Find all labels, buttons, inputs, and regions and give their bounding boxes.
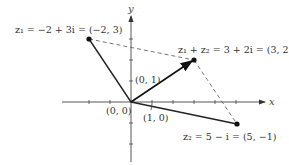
complex-plane-diagram: x y z₁ = −2 + 3i = (−2, 3) z₁ + z₂ = 3 +… [0,0,289,165]
label-z2: z₂ = 5 − i = (5, −1) [183,131,276,142]
point-sum [191,57,196,62]
label-unit-x: (1, 0) [143,112,169,123]
dashed-sum-to-z2 [194,60,237,124]
label-origin: (0, 0) [106,105,132,116]
unit-x-marker [151,104,152,110]
point-z2 [234,121,239,126]
point-z1 [86,36,91,41]
label-sum: z₁ + z₂ = 3 + 2i = (3, 2) [178,44,289,55]
label-z1: z₁ = −2 + 3i = (−2, 3) [15,24,122,35]
label-unit-y: (0, 1) [135,74,161,85]
x-axis-label: x [269,96,275,107]
vector-z1 [89,39,131,102]
y-axis-label: y [127,3,134,14]
